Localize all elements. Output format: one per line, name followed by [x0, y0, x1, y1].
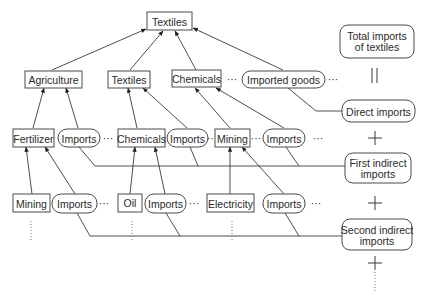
edge-imports-to-chemicals — [216, 88, 284, 128]
second-indirect-imports: Second indirect imports — [341, 219, 413, 250]
edge-mining-to-fertilizer — [26, 147, 32, 194]
node-root-textiles: Textiles — [147, 12, 192, 30]
edge-textiles-to-textiles — [130, 31, 163, 70]
total-imports-of-textiles: Total imports of textiles — [340, 25, 414, 58]
node-imported-goods: Imported goods — [242, 71, 325, 88]
node-label: Imports — [266, 133, 301, 145]
node-agriculture: Agriculture — [25, 71, 82, 88]
edge-imports-to-chemicals-l2 — [155, 147, 165, 194]
import-decomposition-diagram: Textiles Agriculture Textiles Chemicals … — [0, 0, 427, 302]
node-chemicals-l1: Chemicals — [172, 70, 221, 87]
first-indirect-imports: First indirect imports — [345, 153, 411, 183]
direct-imports-label: Direct imports — [346, 106, 411, 118]
node-label: Mining — [217, 133, 248, 145]
node-label: Imports — [266, 198, 301, 210]
edge-fertilizer-to-agriculture — [33, 88, 44, 128]
edge-chemicals-to-textiles-l1 — [128, 88, 137, 128]
edge-mining-to-chemicals — [195, 88, 230, 128]
edge-imports-to-agriculture — [66, 88, 78, 128]
node-imports-l2-a: Imports — [58, 129, 100, 147]
node-electricity: Electricity — [207, 194, 254, 212]
node-chemicals-l2: Chemicals — [117, 129, 166, 147]
ellipsis: ··· — [251, 132, 262, 144]
edge-imports-to-textiles-l1 — [143, 88, 187, 128]
link-first-indirect-b — [190, 147, 198, 166]
node-label: Textiles — [111, 74, 146, 86]
plus-sign-2 — [368, 196, 382, 210]
edge-imported-goods-to-textiles — [193, 28, 283, 70]
node-label: Imports — [61, 133, 96, 145]
first-indirect-label-line2: imports — [361, 168, 395, 180]
ellipsis: ··· — [311, 197, 322, 209]
total-label-line2: of textiles — [355, 41, 399, 53]
link-second-indirect-c — [285, 213, 299, 236]
node-label: Agriculture — [28, 74, 78, 86]
node-label: Mining — [16, 198, 47, 210]
node-imports-l3-a: Imports — [52, 194, 97, 213]
node-oil: Oil — [118, 194, 142, 212]
link-first-indirect-a — [79, 147, 345, 166]
link-second-indirect-b — [166, 213, 180, 236]
tree-edges — [26, 28, 284, 194]
edge-agriculture-to-textiles — [52, 29, 146, 70]
edge-chemicals-to-textiles — [175, 31, 196, 70]
second-indirect-label-line2: imports — [360, 235, 394, 247]
node-label: Chemicals — [117, 133, 166, 145]
node-label: Fertilizer — [13, 133, 54, 145]
node-fertilizer: Fertilizer — [13, 129, 54, 147]
plus-sign-1 — [368, 131, 382, 145]
link-direct-imports — [288, 88, 342, 111]
plus-sign-3 — [368, 256, 382, 270]
node-imports-l3-b: Imports — [145, 194, 186, 213]
node-imports-l2-c: Imports — [263, 129, 305, 147]
direct-imports: Direct imports — [342, 100, 415, 122]
node-label: Textiles — [152, 16, 187, 28]
link-first-indirect-c — [286, 147, 299, 166]
node-label: Imported goods — [247, 74, 320, 86]
node-mining-l2: Mining — [215, 129, 250, 147]
continuation-dots — [31, 221, 375, 292]
ellipsis: ··· — [103, 132, 114, 144]
ellipsis: ··· — [328, 73, 339, 85]
ellipsis: ··· — [99, 197, 110, 209]
import-links — [77, 88, 345, 236]
edge-imports-to-mining — [242, 147, 284, 194]
node-mining-l3: Mining — [13, 194, 50, 212]
node-imports-l3-c: Imports — [263, 194, 305, 213]
ellipsis: ··· — [313, 132, 324, 144]
node-label: Imports — [57, 198, 92, 210]
edge-oil-to-chemicals — [130, 147, 135, 194]
node-label: Chemicals — [172, 73, 221, 85]
ellipsis: ··· — [227, 73, 238, 85]
edge-imports-to-fertilizer — [45, 147, 75, 194]
node-label: Imports — [148, 198, 183, 210]
equals-sign — [372, 68, 377, 83]
ellipsis: ··· — [189, 197, 200, 209]
node-label: Electricity — [208, 198, 254, 210]
node-imports-l2-b: Imports — [167, 129, 208, 147]
node-label: Oil — [124, 197, 137, 209]
node-label: Imports — [170, 133, 205, 145]
node-textiles-l1: Textiles — [108, 71, 150, 88]
link-second-indirect-a — [77, 213, 342, 236]
